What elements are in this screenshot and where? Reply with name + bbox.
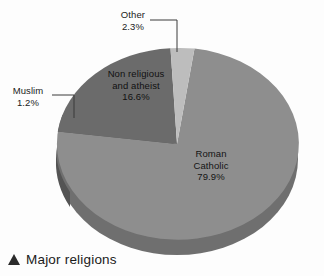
slice-label-roman-catholic: Roman Catholic 79.9% (168, 148, 254, 183)
slice-label-other: Other 2.3% (103, 9, 163, 32)
pie-chart-graphic (0, 0, 324, 276)
triangle-up-icon (8, 254, 20, 265)
slice-label-non-religious: Non religious and atheist 16.6% (88, 68, 184, 103)
slice-label-muslim: Muslim 1.2% (2, 85, 54, 108)
pie-chart-figure: Other 2.3% Muslim 1.2% Non religious and… (0, 0, 324, 276)
figure-caption-text: Major religions (26, 252, 117, 267)
figure-caption: Major religions (8, 252, 117, 267)
